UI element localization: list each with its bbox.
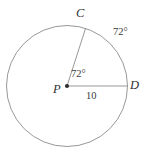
point-label-d: D [130, 79, 139, 92]
arc-angle-label: 72° [113, 27, 128, 38]
circle-geometry-figure: C D P 72° 72° 10 [0, 0, 145, 151]
radius-length-label: 10 [86, 91, 97, 102]
center-point-dot [65, 84, 69, 88]
central-angle-label: 72° [71, 69, 86, 80]
point-label-c: C [76, 7, 84, 20]
point-label-p: P [53, 83, 61, 96]
